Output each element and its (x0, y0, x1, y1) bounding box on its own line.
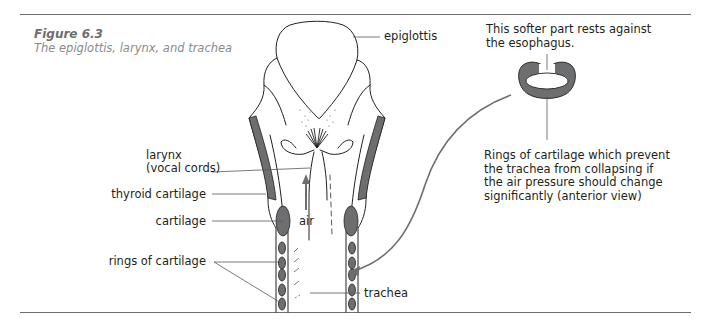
label-epiglottis: epiglottis (384, 30, 437, 43)
inset-bottom-note-line: Rings of cartilage which prevent (484, 149, 670, 163)
trachea-hatching (294, 248, 300, 298)
vocal-cord-strokes (306, 128, 328, 148)
label-vocal-cords: (vocal cords) (146, 162, 220, 175)
label-thyroid-cartilage: thyroid cartilage (111, 188, 206, 201)
label-cartilage: cartilage (156, 215, 206, 228)
left-fold (264, 85, 286, 125)
thyroid-cartilage-right (358, 116, 385, 200)
inset-top-note: This softer part rests against the esoph… (486, 23, 651, 50)
inset-bottom-note-line: significantly (anterior view) (484, 190, 670, 204)
label-air: air (299, 215, 314, 228)
inset-bottom-note: Rings of cartilage which prevent the tra… (484, 149, 670, 203)
airway-right (322, 152, 327, 200)
epiglottis-outline (276, 21, 358, 118)
inset-bottom-note-line: the trachea from collapsing if (484, 163, 670, 177)
label-rings-of-cartilage: rings of cartilage (109, 255, 206, 268)
inset-top-note-line: This softer part rests against (486, 23, 651, 37)
inset-bottom-note-line: the air pressure should change (484, 176, 670, 190)
inset-top-note-line: the esophagus. (486, 37, 651, 51)
cartilage-right (344, 206, 358, 236)
tracheal-rings (279, 242, 356, 310)
thyroid-cartilage-left (249, 116, 276, 200)
back-wall-dashed (330, 175, 332, 235)
right-fold (348, 85, 370, 125)
label-trachea: trachea (364, 287, 408, 300)
